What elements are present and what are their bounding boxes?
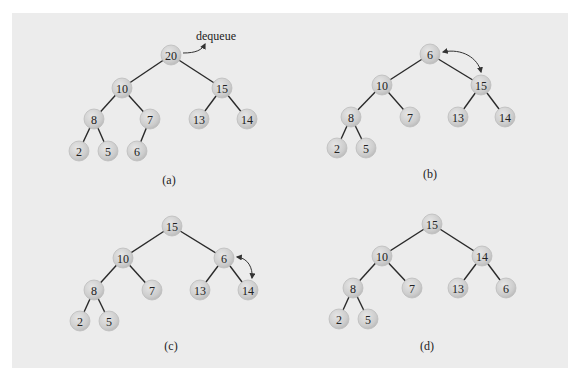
node-value: 6: [221, 252, 227, 266]
heap-node-d-7: 7: [402, 278, 422, 298]
node-value: 2: [334, 142, 340, 156]
node-value: 6: [427, 48, 433, 62]
node-value: 14: [499, 111, 511, 125]
node-value: 8: [91, 284, 97, 298]
heap-node-d-13: 13: [448, 278, 468, 298]
node-value: 7: [409, 282, 415, 296]
node-value: 13: [452, 111, 464, 125]
node-value: 10: [376, 250, 388, 264]
heap-node-a-5: 5: [98, 141, 118, 161]
heap-node-d-2: 2: [329, 309, 349, 329]
node-value: 10: [376, 79, 388, 93]
node-value: 8: [350, 282, 356, 296]
heap-node-c-13: 13: [190, 280, 210, 300]
heap-node-a-20: 20: [161, 45, 181, 65]
node-value: 20: [165, 49, 177, 63]
swap-arrow-b-icon: [443, 51, 481, 72]
node-value: 7: [147, 113, 153, 127]
heap-node-c-6: 6: [214, 248, 234, 268]
node-value: 14: [242, 284, 254, 298]
heap-node-b-13: 13: [448, 107, 468, 127]
heap-node-c-15: 15: [162, 216, 182, 236]
node-value: 5: [363, 142, 369, 156]
heap-node-a-2: 2: [69, 141, 89, 161]
heap-node-b-8: 8: [341, 107, 361, 127]
swap-arrow-c-icon: [237, 257, 252, 278]
heap-node-d-10: 10: [372, 246, 392, 266]
node-value: 6: [134, 145, 140, 159]
node-value: 14: [241, 113, 253, 127]
heap-node-d-5: 5: [358, 309, 378, 329]
heap-node-a-15: 15: [212, 78, 232, 98]
heap-node-c-10: 10: [113, 248, 133, 268]
heap-node-b-2: 2: [327, 138, 347, 158]
heap-node-d-6: 6: [496, 278, 516, 298]
heap-node-a-8: 8: [84, 109, 104, 129]
heap-node-c-14: 14: [238, 280, 258, 300]
heap-node-d-15: 15: [422, 214, 442, 234]
panel-caption-c: (c): [164, 339, 177, 353]
dequeue-annotation: dequeue: [183, 29, 236, 53]
nodes-layer: 2010158713142566101587131425151068713142…: [69, 44, 516, 331]
heap-node-c-8: 8: [84, 280, 104, 300]
node-value: 15: [216, 82, 228, 96]
node-value: 13: [193, 113, 205, 127]
node-value: 7: [407, 111, 413, 125]
heap-node-c-7: 7: [142, 280, 162, 300]
heap-node-d-8: 8: [343, 278, 363, 298]
heap-node-b-15: 15: [471, 75, 491, 95]
heap-node-b-10: 10: [372, 75, 392, 95]
node-value: 5: [105, 145, 111, 159]
node-value: 14: [476, 250, 488, 264]
heap-node-b-5: 5: [356, 138, 376, 158]
heap-node-c-5: 5: [99, 311, 119, 331]
heap-node-a-7: 7: [140, 109, 160, 129]
node-value: 13: [194, 284, 206, 298]
node-value: 10: [116, 82, 128, 96]
heap-dequeue-diagram: 2010158713142566101587131425151068713142…: [0, 0, 583, 381]
panel-caption-a: (a): [162, 173, 175, 187]
node-value: 15: [166, 220, 178, 234]
node-value: 15: [475, 79, 487, 93]
heap-node-c-2: 2: [70, 311, 90, 331]
node-value: 2: [77, 315, 83, 329]
node-value: 6: [503, 282, 509, 296]
node-value: 15: [426, 218, 438, 232]
node-value: 7: [149, 284, 155, 298]
node-value: 13: [452, 282, 464, 296]
captions-layer: (a)(b)(c)(d): [162, 167, 437, 353]
heap-node-b-14: 14: [495, 107, 515, 127]
heap-node-b-7: 7: [400, 107, 420, 127]
node-value: 10: [117, 252, 129, 266]
heap-node-b-6: 6: [420, 44, 440, 64]
node-value: 8: [348, 111, 354, 125]
dequeue-label: dequeue: [196, 29, 236, 43]
node-value: 2: [76, 145, 82, 159]
heap-node-a-6: 6: [127, 141, 147, 161]
heap-node-a-13: 13: [189, 109, 209, 129]
node-value: 5: [106, 315, 112, 329]
panel-caption-d: (d): [420, 339, 434, 353]
panel-caption-b: (b): [423, 167, 437, 181]
node-value: 2: [336, 313, 342, 327]
heap-node-a-10: 10: [112, 78, 132, 98]
dequeue-arrow-icon: [183, 44, 205, 53]
edges-layer: [79, 54, 506, 321]
heap-node-d-14: 14: [472, 246, 492, 266]
heap-node-a-14: 14: [237, 109, 257, 129]
node-value: 5: [365, 313, 371, 327]
node-value: 8: [91, 113, 97, 127]
